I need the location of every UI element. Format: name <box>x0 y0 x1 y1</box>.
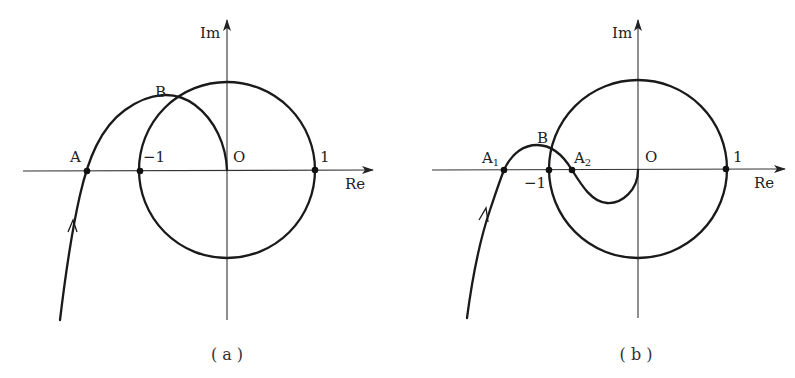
nyquist-curve <box>60 95 227 320</box>
label-A1: A1 <box>481 149 499 168</box>
point-one <box>723 166 730 173</box>
point-A <box>84 168 91 175</box>
point-minus-one <box>137 168 144 175</box>
re-label: Re <box>345 175 365 193</box>
label-minus-one: −1 <box>143 148 165 166</box>
point-A2 <box>569 167 576 174</box>
point-minus-one <box>546 167 553 174</box>
caption-b: ( b ) <box>620 345 653 364</box>
point-one <box>312 167 319 174</box>
caption-a: ( a ) <box>211 345 243 364</box>
im-label: Im <box>200 24 220 42</box>
nyquist-diagram: Im Re O A B −1 1 ( a ) Im Re O A1 A2 B −… <box>0 0 795 378</box>
origin-label: O <box>645 148 657 166</box>
label-one: 1 <box>320 148 330 166</box>
re-label: Re <box>754 174 774 192</box>
label-A: A <box>69 148 81 166</box>
panel-a: Im Re O A B −1 1 ( a ) <box>23 20 373 364</box>
real-axis <box>432 169 785 170</box>
panel-b: Im Re O A1 A2 B −1 1 ( b ) <box>432 20 785 364</box>
real-axis <box>23 170 373 171</box>
nyquist-curve <box>467 145 638 318</box>
label-one: 1 <box>733 148 743 166</box>
origin-label: O <box>233 148 245 166</box>
point-A1 <box>501 167 508 174</box>
im-label: Im <box>612 24 632 42</box>
label-B: B <box>537 129 548 147</box>
label-B: B <box>155 83 166 101</box>
label-minus-one: −1 <box>524 174 546 192</box>
label-A2: A2 <box>573 149 591 168</box>
